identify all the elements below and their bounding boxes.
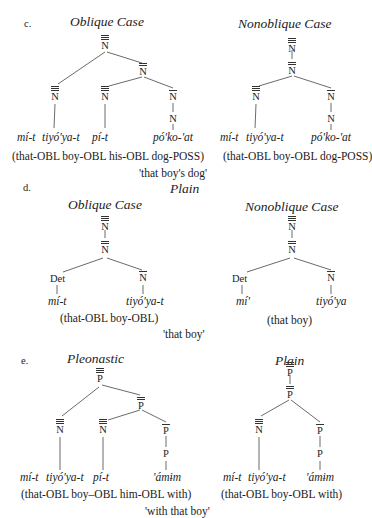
node-n: N <box>166 113 180 124</box>
gloss-plain-e: (that-OBL boy-OBL with) <box>221 487 342 501</box>
word: tiyó'ya-t <box>126 294 164 308</box>
node-n-double-bar: N <box>285 240 299 255</box>
node-n-triple-bar: N <box>98 34 112 51</box>
gloss-nonoblique-d: (that boy) <box>267 313 312 327</box>
node-n-triple-bar: N <box>53 418 67 435</box>
gloss-pleonastic: (that-OBL boy–OBL him-OBL with) <box>21 487 191 501</box>
word: mí' <box>236 294 250 308</box>
node-det: Det <box>232 272 247 286</box>
word: tiyó'ya <box>316 294 347 308</box>
node-n-triple-bar: N <box>285 215 299 232</box>
word: mí-t <box>20 470 39 484</box>
node-n-single-bar: N <box>324 270 338 283</box>
word: pí-t <box>92 130 108 144</box>
word: 'ámɨm <box>306 470 334 484</box>
word: 'ámɨm <box>153 470 181 484</box>
node-p-triple-bar: P <box>93 367 107 384</box>
word: mí-t <box>48 294 67 308</box>
node-n-triple-bar: N <box>48 85 62 102</box>
word: pí-t <box>93 470 109 484</box>
node-n-single-bar: N <box>136 270 150 283</box>
node-n-single-bar: N <box>324 89 338 102</box>
word: tiyó'ya-t <box>246 130 284 144</box>
node-n-double-bar: N <box>285 61 299 76</box>
title-pleonastic: Pleonastic <box>67 352 124 366</box>
node-n-triple-bar: N <box>98 85 112 102</box>
word: tiyó'ya-t <box>248 470 286 484</box>
gloss-nonoblique-c: (that-OBL boy-OBL dog-POSS) <box>223 149 372 163</box>
section-letter-c: c. <box>24 17 31 31</box>
section-letter-e: e. <box>21 354 28 368</box>
node-n-triple-bar: N <box>252 418 266 435</box>
node-n-triple-bar: N <box>285 37 299 54</box>
node-p-single-bar: P <box>313 423 327 436</box>
node-n-triple-bar: N <box>98 215 112 232</box>
node-n: N <box>324 113 338 124</box>
node-n-single-bar: N <box>166 89 180 102</box>
word: tiyó'ya-t <box>42 130 80 144</box>
title-oblique-case-c: Oblique Case <box>70 15 144 29</box>
node-p: P <box>159 448 173 459</box>
title-oblique-case-d: Oblique Case <box>68 198 142 212</box>
node-n-triple-bar: N <box>249 85 263 102</box>
node-p-single-bar: P <box>159 423 173 436</box>
node-n-triple-bar: N <box>96 418 110 435</box>
node-det: Det <box>50 272 65 286</box>
node-n-double-bar: N <box>98 240 112 255</box>
translation-e: 'with that boy' <box>145 504 210 518</box>
section-letter-d: d. <box>23 181 31 195</box>
gloss-oblique-d: (that-OBL boy-OBL) <box>60 311 158 325</box>
node-p: P <box>313 448 327 459</box>
word: tiyó'ya-t <box>46 470 84 484</box>
word: pó'ko-'at <box>311 130 351 144</box>
word: mí-t <box>220 130 239 144</box>
title-nonoblique-case-d: Nonoblique Case <box>245 200 338 214</box>
word: mí-t <box>17 130 36 144</box>
node-p-double-bar: P <box>283 385 297 400</box>
heading-plain-d: Plain <box>170 182 199 196</box>
title-nonoblique-case-c: Nonoblique Case <box>238 17 331 31</box>
gloss-oblique-c: (that-OBL boy-OBL his-OBL dog-POSS) <box>12 149 204 163</box>
word: pó'ko-'at <box>153 130 193 144</box>
word: mí-t <box>223 470 242 484</box>
node-n-double-bar: N <box>136 62 150 77</box>
node-p-double-bar: P <box>134 396 148 411</box>
translation-c: 'that boy's dog' <box>139 166 207 180</box>
translation-d: 'that boy' <box>163 327 205 341</box>
node-p-triple-bar: P <box>283 361 297 378</box>
